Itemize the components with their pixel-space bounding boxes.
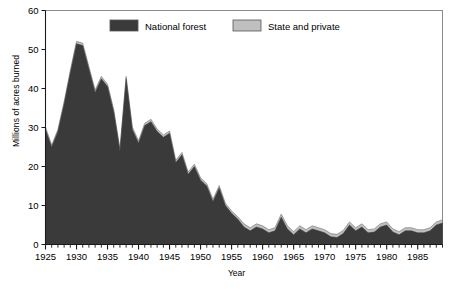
legend-label-national-forest: National forest <box>145 21 207 32</box>
legend-label-state-and-private: State and private <box>268 21 340 32</box>
y-tick-label: 10 <box>28 200 39 211</box>
x-tick-label: 1980 <box>376 251 397 262</box>
x-tick-label: 1975 <box>345 251 366 262</box>
x-tick-label: 1970 <box>314 251 335 262</box>
x-tick-label: 1940 <box>128 251 149 262</box>
x-tick-label: 1945 <box>159 251 180 262</box>
chart-figure: Millions of acres burned Year 0102030405… <box>0 0 473 289</box>
x-tick-label: 1965 <box>283 251 304 262</box>
y-tick-label: 50 <box>28 44 39 55</box>
y-tick-label: 40 <box>28 83 39 94</box>
x-tick-label: 1935 <box>97 251 118 262</box>
x-tick-label: 1950 <box>190 251 211 262</box>
x-axis-ticks: 1925193019351940194519501955196019651970… <box>35 245 443 262</box>
legend-swatch-state-and-private <box>233 20 261 31</box>
x-tick-label: 1985 <box>407 251 428 262</box>
x-tick-label: 1930 <box>66 251 87 262</box>
legend-swatch-national-forest <box>110 20 138 31</box>
x-tick-label: 1960 <box>252 251 273 262</box>
area-chart-plot: 0102030405060 19251930193519401945195019… <box>0 0 473 289</box>
x-tick-label: 1925 <box>35 251 56 262</box>
x-axis-label: Year <box>0 268 473 278</box>
x-tick-label: 1955 <box>221 251 242 262</box>
y-tick-label: 20 <box>28 161 39 172</box>
y-tick-label: 30 <box>28 122 39 133</box>
y-tick-label: 60 <box>28 5 39 16</box>
y-axis-label: Millions of acres burned <box>11 41 21 161</box>
y-axis-ticks: 0102030405060 <box>28 5 46 250</box>
y-tick-label: 0 <box>33 239 38 250</box>
